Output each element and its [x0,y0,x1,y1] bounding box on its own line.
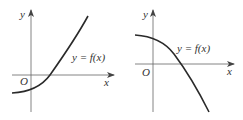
right-y-axis-label: y [142,8,148,20]
right-origin-label: O [142,66,150,78]
left-origin-label: O [20,75,28,87]
left-graph: y x O y = f(x) [12,8,114,112]
right-graph: y x O y = f(x) [135,8,234,112]
function-graphs-figure: y x O y = f(x) y x O y = f(x) [0,0,243,120]
left-curve-label: y = f(x) [71,51,105,64]
right-curve-label: y = f(x) [176,42,210,55]
left-y-axis-label: y [19,8,25,20]
left-x-axis-label: x [103,76,109,88]
right-x-axis-label: x [226,65,232,77]
